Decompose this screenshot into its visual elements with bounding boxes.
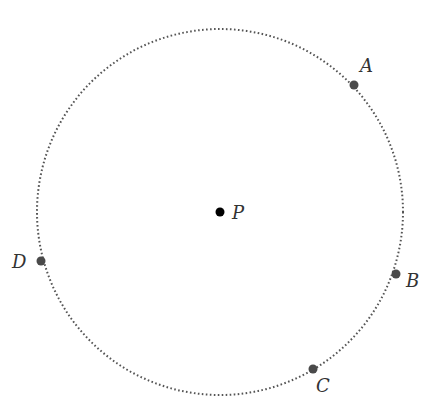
center-point-group: P [216,202,246,223]
point-a-group: A [350,55,374,90]
point-b [392,270,401,279]
point-c-group: C [309,365,331,397]
point-d [37,257,46,266]
point-a-label: A [358,55,373,76]
point-c [309,365,318,374]
point-d-group: D [11,251,46,272]
center-point-p [216,208,225,217]
point-d-label: D [11,251,27,272]
point-b-group: B [392,270,420,292]
point-c-label: C [316,375,330,396]
circle-diagram: P A B C D [0,0,436,414]
point-b-label: B [405,270,419,291]
center-point-label: P [231,202,245,223]
point-a [350,81,359,90]
